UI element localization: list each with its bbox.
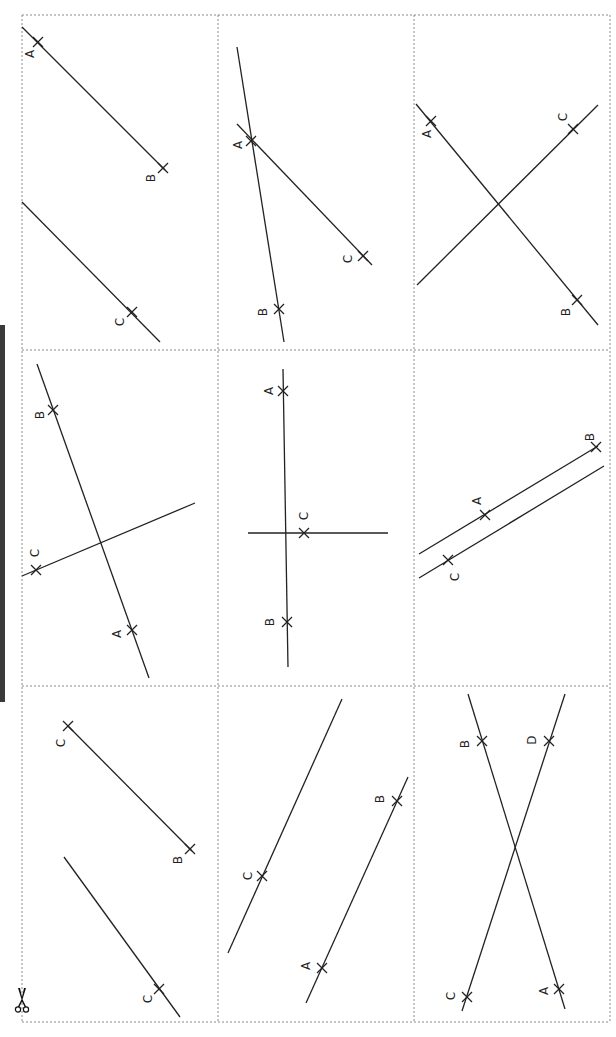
panel-r2c2: BDAC — [444, 694, 566, 1011]
panel-r0c2: ACB — [416, 104, 598, 325]
panel-r0c0: ABC — [22, 27, 168, 342]
point-marker-b: B — [171, 844, 196, 864]
point-label: B — [256, 308, 270, 316]
point-marker-c: C — [54, 721, 74, 747]
point-label: C — [241, 872, 255, 880]
point-label: C — [444, 992, 458, 1000]
panel-r1c1: ACB — [248, 369, 388, 667]
point-label: A — [420, 129, 434, 138]
point-marker-b: B — [373, 795, 403, 806]
point-marker-c: C — [556, 113, 579, 134]
point-marker-b: B — [33, 405, 59, 419]
scissors-icon — [14, 988, 30, 1014]
point-label: B — [171, 856, 185, 864]
point-marker-b: B — [559, 295, 583, 316]
point-marker-a: A — [299, 961, 328, 973]
point-label: B — [583, 433, 597, 441]
point-marker-c: C — [443, 555, 462, 581]
panels: ABCABCACBBCAACBBACCBCCBABDAC — [22, 27, 604, 1017]
geometry-line — [68, 726, 192, 851]
point-label: A — [470, 496, 484, 505]
geometry-line — [228, 699, 342, 953]
panel-r0c1: ABC — [231, 47, 373, 342]
panel-r2c0: CBC — [54, 721, 196, 1017]
point-label: C — [448, 573, 462, 581]
panel-r1c0: BCA — [22, 364, 195, 678]
point-label: A — [231, 140, 245, 149]
point-label: C — [341, 255, 355, 263]
geometry-line — [22, 27, 165, 170]
point-marker-c: C — [141, 984, 165, 1003]
point-marker-a: A — [23, 37, 44, 58]
point-marker-a: A — [231, 136, 257, 149]
point-label: B — [559, 308, 573, 316]
point-marker-c: C — [341, 251, 369, 263]
geometry-line — [237, 124, 372, 265]
point-label: B — [373, 795, 387, 803]
cut-lines — [22, 15, 610, 1022]
point-label: C — [556, 113, 570, 121]
panel-r2c1: CBA — [228, 699, 408, 1003]
geometry-line — [237, 47, 284, 342]
point-label: C — [141, 995, 155, 1003]
point-label: C — [113, 318, 127, 326]
point-marker-c: C — [297, 512, 311, 538]
point-label: A — [537, 986, 551, 995]
exercise-grid: ABCABCACBBCAACBBACCBCCBABDAC — [0, 0, 616, 1037]
geometry-line — [419, 446, 598, 554]
point-label: C — [297, 512, 311, 520]
geometry-line — [22, 202, 160, 342]
point-marker-a: A — [420, 116, 437, 138]
point-label: A — [299, 961, 313, 970]
point-marker-b: B — [458, 736, 488, 748]
point-label: C — [54, 739, 68, 747]
point-marker-b: B — [144, 163, 169, 182]
point-marker-c: C — [28, 549, 42, 575]
point-label: C — [28, 549, 42, 557]
point-label: B — [263, 618, 277, 626]
geometry-line — [416, 104, 598, 325]
point-marker-a: A — [470, 496, 491, 520]
point-label: D — [525, 735, 539, 744]
worksheet: ABCABCACBBCAACBBACCBCCBABDAC — [0, 0, 616, 1037]
point-label: B — [33, 411, 47, 419]
point-marker-a: A — [110, 625, 138, 638]
panel-r1c2: BAC — [419, 433, 604, 581]
point-label: B — [144, 174, 158, 182]
point-label: B — [458, 740, 472, 748]
point-label: A — [23, 49, 37, 58]
point-label: A — [262, 386, 276, 395]
point-label: A — [110, 629, 124, 638]
point-marker-c: C — [113, 307, 138, 326]
point-marker-d: D — [525, 735, 555, 746]
